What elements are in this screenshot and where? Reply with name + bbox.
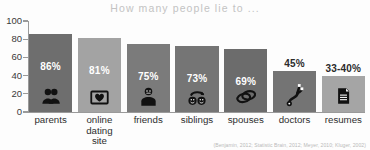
y-axis-tick-label: 60 — [0, 52, 22, 61]
bar-chart-figure: How many people lie to ... 100806040200 … — [0, 0, 370, 150]
bar-group[interactable]: 86% — [29, 21, 72, 112]
y-axis-tick-mark — [23, 111, 28, 112]
category-label: parents — [23, 115, 78, 126]
bars-layer: 86%81%75%73%69%45%33-40% — [29, 21, 365, 112]
people-icon — [29, 85, 72, 107]
bar-value-label: 33-40% — [322, 63, 365, 74]
bar-group[interactable]: 75% — [127, 21, 170, 112]
chart-title: How many people lie to ... — [0, 2, 370, 14]
category-label-line: site — [72, 136, 127, 147]
category-label-line: online — [72, 115, 127, 126]
bar-group[interactable]: 33-40% — [322, 21, 365, 112]
heart-frame-icon — [78, 88, 121, 107]
document-icon — [322, 85, 365, 107]
y-axis-tick-mark — [23, 39, 28, 40]
y-axis-tick-label: 100 — [0, 16, 22, 25]
y-axis-tick-mark — [23, 57, 28, 58]
stethoscope-icon — [273, 83, 316, 107]
bar-value-label: 81% — [78, 65, 121, 76]
category-label: onlinedatingsite — [72, 115, 127, 147]
bar-group[interactable]: 69% — [224, 21, 267, 112]
y-axis-tick-label: 80 — [0, 34, 22, 43]
category-label-line: siblings — [169, 115, 224, 126]
category-label-line: doctors — [267, 115, 322, 126]
bar-value-label: 45% — [273, 58, 316, 69]
two-faces-arc-icon — [175, 87, 218, 107]
y-axis-tick-mark — [23, 75, 28, 76]
bar-value-label: 75% — [127, 71, 170, 82]
y-axis-tick-mark — [23, 93, 28, 94]
person-icon — [127, 86, 170, 107]
category-label: siblings — [169, 115, 224, 126]
category-label: spouses — [218, 115, 273, 126]
category-label-line: friends — [121, 115, 176, 126]
y-axis-tick-label: 20 — [0, 89, 22, 98]
y-axis-tick-label: 0 — [0, 107, 22, 116]
y-axis-tick-label: 40 — [0, 71, 22, 80]
category-label-line: resumes — [316, 115, 370, 126]
category-label: resumes — [316, 115, 370, 126]
bar-value-label: 73% — [175, 73, 218, 84]
bar-group[interactable]: 45% — [273, 21, 316, 112]
y-axis-tick-mark — [23, 20, 28, 21]
source-citation: (Benjamin, 2012; Statistic Brain, 2012; … — [213, 142, 366, 148]
category-label: doctors — [267, 115, 322, 126]
bar-group[interactable]: 73% — [175, 21, 218, 112]
category-label: friends — [121, 115, 176, 126]
category-label-line: parents — [23, 115, 78, 126]
bar-group[interactable]: 81% — [78, 21, 121, 112]
category-label-line: spouses — [218, 115, 273, 126]
wedding-rings-icon — [224, 86, 267, 107]
bar-value-label: 86% — [29, 61, 72, 72]
